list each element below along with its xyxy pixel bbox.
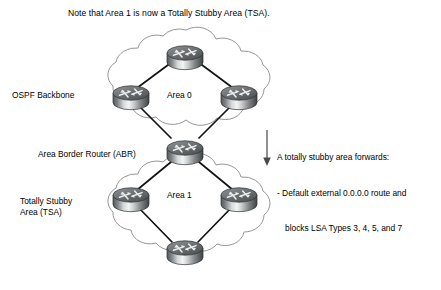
label-tsa-line1: Totally Stubby (20, 196, 72, 206)
label-area-1: Area 1 (167, 190, 192, 200)
router-icon-area0-top (167, 46, 203, 70)
router-icon-area0-left (113, 86, 149, 110)
router-icon-area1-right (221, 188, 257, 212)
label-area-border-router: Area Border Router (ABR) (38, 149, 136, 159)
annotation-line-3: blocks LSA Types 3, 4, 5, and 7 (277, 223, 406, 235)
router-icon-abr (167, 141, 203, 165)
annotation-line-1: A totally stubby area forwards: (277, 152, 406, 164)
label-totally-stubby-area: Totally StubbyArea (TSA) (20, 196, 72, 219)
router-icon-area1-bottom (167, 241, 203, 265)
cloud-icon-area-0 (108, 27, 270, 125)
label-area-0: Area 0 (167, 90, 192, 100)
router-icon-area0-right (221, 86, 257, 110)
label-ospf-backbone: OSPF Backbone (12, 90, 74, 100)
ospf-tsa-diagram: Note that Area 1 is now a Totally Stubby… (0, 0, 441, 290)
title-note: Note that Area 1 is now a Totally Stubby… (68, 8, 270, 18)
router-icon-area1-left (113, 188, 149, 212)
label-tsa-line2: Area (TSA) (20, 207, 62, 217)
annotation-totally-stubby-behavior: A totally stubby area forwards: - Defaul… (277, 128, 406, 259)
down-arrow-icon (263, 130, 271, 166)
annotation-line-2: - Default external 0.0.0.0 route and (277, 188, 406, 200)
